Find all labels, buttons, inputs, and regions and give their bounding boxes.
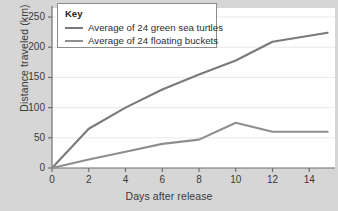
legend-swatch-buckets bbox=[65, 40, 83, 43]
y-tick-label: 100 bbox=[15, 102, 45, 113]
legend: Key Average of 24 green sea turtles Aver… bbox=[57, 3, 217, 48]
x-tick-label: 4 bbox=[116, 174, 136, 185]
legend-title: Key bbox=[65, 8, 210, 19]
y-tick-label: 0 bbox=[15, 162, 45, 173]
chart-figure: Distance traveled (km) Days after releas… bbox=[0, 0, 338, 211]
x-axis-ticks bbox=[52, 168, 309, 172]
y-tick-label: 250 bbox=[15, 11, 45, 22]
y-tick-label: 50 bbox=[15, 132, 45, 143]
x-tick-label: 6 bbox=[152, 174, 172, 185]
legend-item-turtles: Average of 24 green sea turtles bbox=[65, 22, 210, 35]
x-axis-title: Days after release bbox=[0, 190, 338, 202]
y-tick-label: 200 bbox=[15, 41, 45, 52]
x-tick-label: 8 bbox=[189, 174, 209, 185]
x-tick-label: 14 bbox=[299, 174, 319, 185]
legend-item-buckets: Average of 24 floating buckets bbox=[65, 35, 210, 48]
y-tick-label: 150 bbox=[15, 71, 45, 82]
legend-label-turtles: Average of 24 green sea turtles bbox=[88, 22, 223, 34]
x-tick-label: 0 bbox=[42, 174, 62, 185]
legend-label-buckets: Average of 24 floating buckets bbox=[88, 35, 218, 47]
x-tick-label: 12 bbox=[263, 174, 283, 185]
x-tick-label: 2 bbox=[79, 174, 99, 185]
x-tick-label: 10 bbox=[226, 174, 246, 185]
legend-swatch-turtles bbox=[65, 27, 83, 30]
